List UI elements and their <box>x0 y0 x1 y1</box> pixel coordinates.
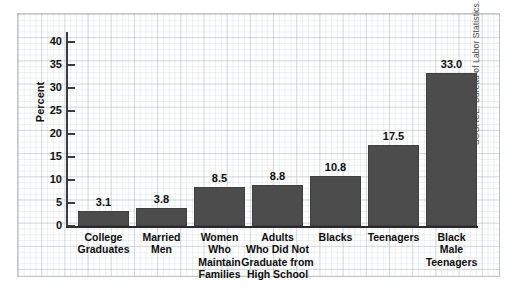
y-tick-label-40-wrap: 40 <box>36 36 62 47</box>
bar-value-college-graduates: 3.1 <box>78 196 129 208</box>
y-tick-label-15-wrap: 15 <box>36 151 62 162</box>
y-tick-label-15: 15 <box>36 151 62 162</box>
y-tick-0 <box>68 225 75 227</box>
bar-black-male-teenagers[interactable] <box>426 73 477 226</box>
y-tick-label-5: 5 <box>36 197 62 208</box>
bar-women-who-maintain-families[interactable] <box>194 187 245 226</box>
y-tick-30 <box>68 87 75 89</box>
category-label-black-male-teenagers: Black Male Teenagers <box>416 231 487 268</box>
y-tick-35 <box>68 64 75 66</box>
y-axis-line <box>66 32 68 227</box>
bar-value-women-who-maintain-families: 8.5 <box>194 172 245 184</box>
y-tick-label-10-wrap: 10 <box>36 174 62 185</box>
y-tick-40 <box>68 41 75 43</box>
bar-college-graduates[interactable] <box>78 211 129 226</box>
y-tick-15 <box>68 156 75 158</box>
chart-screenshot: 0 5 10 15 20 25 30 35 40 <box>0 0 526 294</box>
y-tick-label-40: 40 <box>36 36 62 47</box>
bar-chart-plot: 0 5 10 15 20 25 30 35 40 <box>0 0 526 294</box>
bar-value-married-men: 3.8 <box>136 193 187 205</box>
y-tick-10 <box>68 179 75 181</box>
y-tick-25 <box>68 110 75 112</box>
bar-value-black-male-teenagers: 33.0 <box>426 58 477 70</box>
source-note: SOURCE: Bureau of Labor Statistics. <box>471 0 481 145</box>
bar-value-adults-no-hs-diploma: 8.8 <box>252 170 303 182</box>
y-tick-label-5-wrap: 5 <box>36 197 62 208</box>
y-tick-label-10: 10 <box>36 174 62 185</box>
bar-value-teenagers: 17.5 <box>368 130 419 142</box>
y-tick-5 <box>68 202 75 204</box>
y-tick-label-0-wrap: 0 <box>36 220 62 231</box>
bar-value-blacks: 10.8 <box>310 161 361 173</box>
bar-blacks[interactable] <box>310 176 361 226</box>
y-tick-label-0: 0 <box>36 220 62 231</box>
y-tick-label-35: 35 <box>36 59 62 70</box>
bar-teenagers[interactable] <box>368 145 419 226</box>
x-axis-line <box>66 226 478 228</box>
y-axis-title: Percent <box>34 72 46 132</box>
bar-adults-no-hs-diploma[interactable] <box>252 185 303 226</box>
y-tick-20 <box>68 133 75 135</box>
y-tick-label-35-wrap: 35 <box>36 59 62 70</box>
bar-married-men[interactable] <box>136 208 187 226</box>
